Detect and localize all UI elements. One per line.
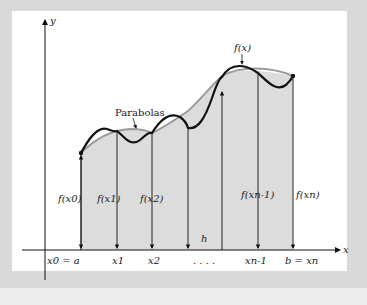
x-tick-label-n: b = xn: [285, 255, 318, 266]
x-tick-label-2: x2: [148, 255, 160, 266]
x-tick-label-0: x0 = a: [47, 255, 80, 266]
ordinate-label-0: f(x0): [57, 193, 82, 204]
x-tick-ellipsis: . . . .: [193, 255, 215, 266]
x-tick-label-n-1: xn-1: [245, 255, 267, 266]
x-tick-label-1: x1: [112, 255, 124, 266]
ordinate-label-n: f(xn): [295, 189, 320, 200]
simpson-rule-diagram: y x Parabolas f(x) f(x0) f(x1) f(x2) f(x…: [0, 0, 367, 305]
interval-label-h: h: [201, 233, 207, 244]
y-axis-label: y: [49, 15, 56, 26]
curve-label: f(x): [233, 42, 251, 53]
ordinate-label-n-1: f(xn-1): [240, 189, 274, 200]
shaded-area: [81, 71, 293, 250]
ordinate-label-2: f(x2): [139, 193, 164, 204]
x-axis-label: x: [343, 244, 349, 255]
ordinate-label-1: f(x1): [96, 193, 121, 204]
parabolas-label: Parabolas: [115, 107, 165, 118]
